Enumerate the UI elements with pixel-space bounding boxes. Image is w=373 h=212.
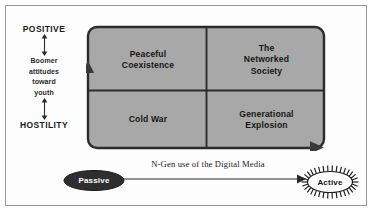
passive-node[interactable]: Passive [63,170,125,191]
quadrant-matrix: Peaceful Coexistence The Networked Socie… [86,25,327,151]
quadrant-top-right[interactable]: The Networked Society [210,29,323,91]
y-axis-lower-arrow [8,98,80,120]
y-axis-description-line-2: toward [8,77,80,88]
y-axis-top-label: POSITIVE [8,24,80,34]
quadrant-bottom-left[interactable]: Cold War [90,93,206,147]
y-axis-description-line-0: Boomer [8,56,80,67]
quadrant-bottom-right[interactable]: Generational Explosion [210,93,323,147]
active-node[interactable]: Active [299,164,361,200]
y-axis-upper-arrow [8,34,80,56]
matrix-figure: POSITIVE Boomer attitudes toward youth H… [0,0,373,212]
quadrant-bottom-right-label: Generational Explosion [239,109,293,132]
passive-node-label: Passive [63,170,125,191]
y-axis-bottom-label: HOSTILITY [8,120,80,130]
y-axis-description-line-1: attitudes [8,67,80,78]
x-axis-double-arrow [110,172,306,186]
quadrant-top-left[interactable]: Peaceful Coexistence [90,29,206,91]
y-axis-description-line-3: youth [8,88,80,99]
active-node-label: Active [299,164,361,200]
quadrant-top-left-label: Peaceful Coexistence [122,49,174,72]
y-axis: POSITIVE Boomer attitudes toward youth H… [8,24,80,130]
quadrant-top-right-label: The Networked Society [244,43,289,78]
quadrant-bottom-left-label: Cold War [129,114,168,126]
x-axis-label: N-Gen use of the Digital Media [118,159,298,169]
